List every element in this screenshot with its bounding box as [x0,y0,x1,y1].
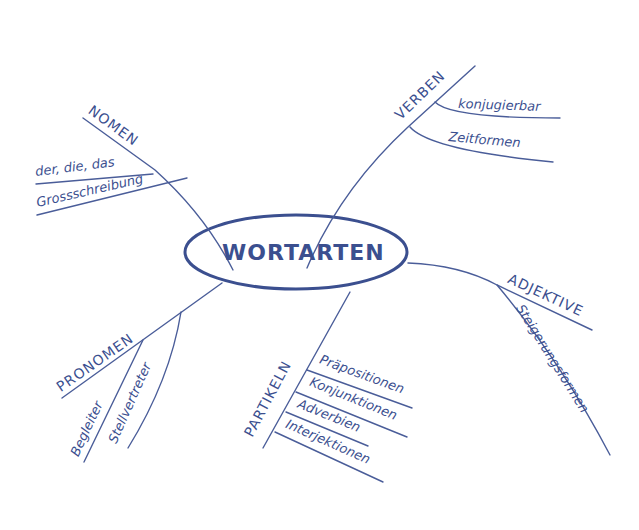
verben-branch-line [307,66,475,268]
mind-map: WORTARTEN NOMEN der, die, das Grossschre… [0,0,639,530]
center-topic: WORTARTEN [222,240,385,265]
verben-item-conjugable: konjugierbar [458,97,541,113]
branch-lines [0,0,639,530]
